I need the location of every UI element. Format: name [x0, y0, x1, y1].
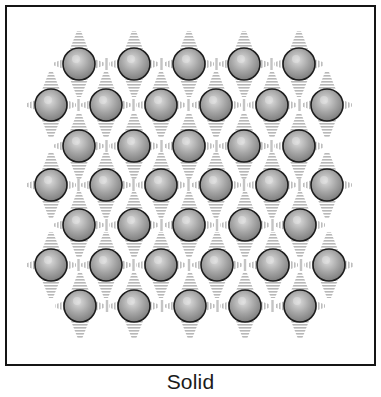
bond-spring — [291, 321, 309, 339]
bond-spring — [320, 232, 338, 250]
bond-spring — [125, 240, 143, 258]
bond-spring — [125, 79, 143, 97]
bond-spring — [42, 152, 60, 170]
bond-spring — [97, 120, 115, 138]
bond-spring — [180, 113, 198, 131]
bond-spring — [77, 99, 79, 111]
bond-spring — [152, 152, 170, 170]
particle — [118, 48, 150, 80]
bond-spring — [152, 72, 170, 90]
particle — [284, 290, 316, 322]
bond-spring — [187, 99, 189, 111]
bond-spring — [264, 280, 282, 298]
particle — [118, 130, 150, 162]
particle — [283, 130, 315, 162]
bond-spring — [236, 192, 254, 210]
bond-spring — [77, 179, 79, 191]
figure-caption: Solid — [0, 370, 381, 394]
particle — [229, 209, 261, 241]
bond-spring — [291, 273, 309, 291]
bond-spring — [318, 200, 336, 218]
particle — [229, 290, 261, 322]
bond-spring — [181, 273, 199, 291]
bond-spring — [290, 113, 308, 131]
bond-spring — [263, 120, 281, 138]
particle — [63, 48, 95, 80]
bond-spring — [216, 219, 218, 231]
particle — [90, 169, 122, 201]
particle — [311, 169, 343, 201]
bond-spring — [263, 72, 281, 90]
bond-spring — [160, 219, 162, 231]
particle — [35, 169, 67, 201]
bond-spring — [42, 72, 60, 90]
bond-spring — [97, 72, 115, 90]
bond-spring — [208, 280, 226, 298]
bond-spring — [236, 273, 254, 291]
bond-spring — [300, 259, 302, 271]
bond-spring — [180, 79, 198, 97]
bond-spring — [125, 273, 143, 291]
bond-spring — [207, 200, 225, 218]
bond-spring — [42, 232, 60, 250]
particle — [283, 48, 315, 80]
bond-spring — [70, 79, 88, 97]
solid-lattice-figure: Solid — [0, 0, 381, 397]
bond-spring — [263, 200, 281, 218]
bond-spring — [105, 140, 107, 152]
bond-spring — [70, 113, 88, 131]
particle — [228, 48, 260, 80]
particle — [257, 249, 289, 281]
bond-spring — [290, 79, 308, 97]
particle — [311, 89, 343, 121]
bond-spring — [106, 300, 108, 312]
bond-spring — [271, 219, 273, 231]
bond-spring — [70, 192, 88, 210]
bond-spring — [320, 280, 338, 298]
bond-spring — [263, 152, 281, 170]
bond-spring — [290, 31, 308, 49]
particle — [145, 169, 177, 201]
bond-spring — [160, 58, 162, 70]
bond-spring — [236, 321, 254, 339]
bond-spring — [291, 240, 309, 258]
particle — [256, 89, 288, 121]
bond-spring — [160, 140, 162, 152]
particle — [173, 48, 205, 80]
bond-spring — [152, 280, 170, 298]
bond-spring — [125, 113, 143, 131]
bond-spring — [216, 300, 218, 312]
bond-spring — [71, 321, 89, 339]
bond-spring — [97, 200, 115, 218]
bond-spring — [125, 161, 143, 179]
bond-spring — [77, 259, 79, 271]
particle — [284, 209, 316, 241]
bond-spring — [71, 273, 89, 291]
bond-spring — [152, 232, 170, 250]
bond-spring — [188, 259, 190, 271]
bond-spring — [180, 161, 198, 179]
bond-spring — [235, 113, 253, 131]
particle — [313, 249, 345, 281]
particle — [201, 249, 233, 281]
bond-spring — [132, 179, 134, 191]
bond-spring — [243, 99, 245, 111]
bond-spring — [161, 300, 163, 312]
bond-spring — [152, 200, 170, 218]
bond-spring — [97, 232, 115, 250]
bond-spring — [215, 58, 217, 70]
bond-spring — [244, 259, 246, 271]
bond-spring — [318, 120, 336, 138]
bond-spring — [264, 232, 282, 250]
bond-spring — [207, 120, 225, 138]
particle-lattice — [0, 0, 381, 397]
particle — [200, 89, 232, 121]
bond-spring — [291, 192, 309, 210]
particle — [200, 169, 232, 201]
particle — [173, 209, 205, 241]
bond-spring — [42, 200, 60, 218]
bond-spring — [215, 140, 217, 152]
bond-spring — [132, 99, 134, 111]
bond-spring — [97, 152, 115, 170]
particle — [64, 290, 96, 322]
